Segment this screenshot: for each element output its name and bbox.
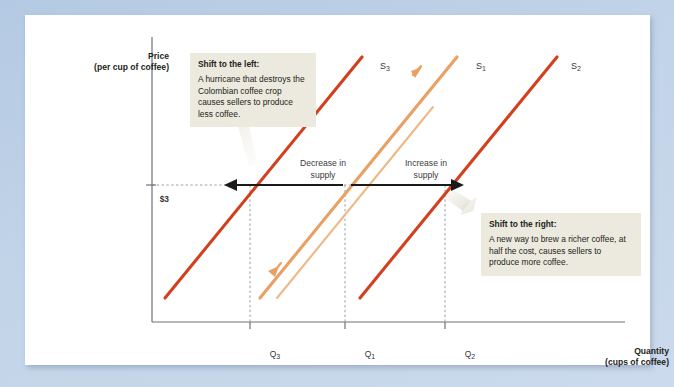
q2-subscript: 2 [471, 353, 475, 360]
callout-shift-left-title: Shift to the left: [198, 59, 308, 70]
y-axis-tick-label-price: $3 [133, 194, 169, 204]
x-axis-title: Quantity (cups of coffee) [541, 346, 669, 368]
curve-label-s3: S3 [380, 61, 390, 72]
shift-left-indicator-line [277, 107, 433, 298]
callout-shift-right-body: A new way to brew a richer coffee, at ha… [489, 234, 633, 268]
x-axis-tick-label-q2: Q2 [457, 349, 483, 360]
callout-shift-right-title: Shift to the right: [489, 219, 633, 230]
y-axis-title-main: Price [148, 51, 169, 61]
callout-shift-right: Shift to the right: A new way to brew a … [481, 213, 641, 276]
s2-subscript: 2 [577, 65, 581, 72]
q3-subscript: 3 [276, 353, 280, 360]
increase-in-supply-label: Increase in supply [385, 157, 467, 181]
decrease-in-supply-label: Decrease in supply [280, 157, 366, 181]
increase-label-line2: supply [414, 170, 439, 180]
increase-label-line1: Increase in [405, 158, 447, 168]
y-axis-title: Price (per cup of coffee) [65, 51, 169, 73]
x-axis-title-sub: (cups of coffee) [605, 357, 669, 367]
x-axis-title-main: Quantity [634, 346, 669, 356]
callout-shift-left-body: A hurricane that destroys the Colombian … [198, 74, 308, 120]
curve-label-s1: S1 [476, 61, 486, 72]
s1-subscript: 1 [482, 65, 486, 72]
s3-subscript: 3 [386, 65, 390, 72]
curve-label-s2: S2 [571, 61, 581, 72]
x-axis-tick-label-q1: Q1 [357, 349, 383, 360]
y-axis-title-sub: (per cup of coffee) [94, 62, 169, 72]
decrease-label-line1: Decrease in [300, 158, 346, 168]
q1-subscript: 1 [371, 353, 375, 360]
supply-shift-figure: Price (per cup of coffee) Quantity (cups… [25, 15, 650, 365]
x-axis-tick-label-q3: Q3 [262, 349, 288, 360]
callout-shift-left: Shift to the left: A hurricane that dest… [190, 53, 316, 127]
decrease-label-line2: supply [311, 170, 336, 180]
decrease-arrowhead-icon [224, 179, 237, 191]
